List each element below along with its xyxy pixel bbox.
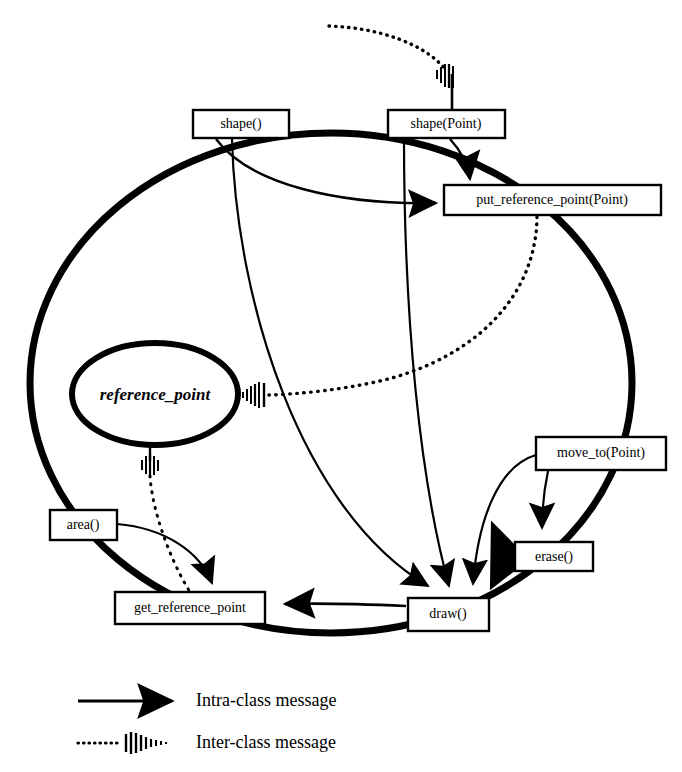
method-area-label: area(): [67, 517, 100, 533]
inter-class-message-reference-point-to-get-reference-point: [142, 445, 190, 592]
method-get-reference-point[interactable]: get_reference_point: [115, 592, 265, 624]
method-put-reference-point-label: put_reference_point(Point): [476, 192, 628, 208]
method-erase-label: erase(): [535, 549, 573, 565]
intra-class-message-draw-to-get-reference-point: [285, 604, 406, 606]
method-put-reference-point[interactable]: put_reference_point(Point): [444, 185, 661, 215]
inter-class-message-external-to-shape-point: [329, 26, 453, 110]
method-get-reference-point-label: get_reference_point: [134, 600, 246, 615]
method-shape[interactable]: shape(): [193, 110, 289, 138]
method-shape-label: shape(): [220, 116, 262, 132]
legend-entry-intra-class: Intra-class message: [78, 690, 336, 710]
hatch-marks-icon: [437, 64, 453, 88]
method-draw[interactable]: draw(): [408, 598, 489, 631]
method-draw-label: draw(): [429, 606, 467, 622]
method-area[interactable]: area(): [50, 510, 117, 540]
method-shape-point[interactable]: shape(Point): [388, 110, 505, 138]
method-move-to-point-label: move_to(Point): [557, 445, 645, 461]
intra-class-message-shape-point-to-draw: [404, 139, 449, 586]
legend: Intra-class message: [78, 690, 336, 754]
dotted-hatch-icon: [78, 732, 166, 754]
attribute-reference-point[interactable]: reference_point: [72, 343, 238, 445]
method-move-to-point[interactable]: move_to(Point): [536, 437, 666, 470]
method-shape-point-label: shape(Point): [411, 116, 482, 132]
hatch-marks-icon: [243, 382, 264, 408]
intra-class-message-shape-to-draw: [232, 139, 428, 586]
diagram-canvas: reference_point shape() shape(Point) put…: [0, 0, 682, 772]
class-diagram: reference_point shape() shape(Point) put…: [0, 0, 682, 772]
attribute-reference-point-label: reference_point: [100, 385, 212, 404]
legend-entry-inter-class: Inter-class message: [78, 732, 336, 754]
method-erase[interactable]: erase(): [515, 542, 593, 571]
legend-entry-inter-class-label: Inter-class message: [196, 732, 336, 752]
inter-class-message-put-reference-point-to-reference-point: [243, 217, 537, 408]
legend-entry-intra-class-label: Intra-class message: [196, 690, 336, 710]
intra-class-message-move-to-to-erase: [542, 471, 548, 528]
